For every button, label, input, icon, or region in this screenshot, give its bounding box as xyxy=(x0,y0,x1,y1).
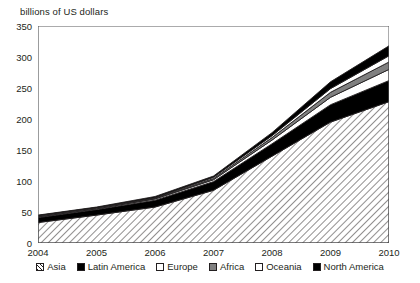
y-tick-label: 150 xyxy=(2,145,32,156)
series-layers xyxy=(38,46,389,243)
plot-svg xyxy=(38,26,389,243)
x-tick-label: 2007 xyxy=(203,247,224,258)
x-tick-label: 2009 xyxy=(320,247,341,258)
x-tick-label: 2005 xyxy=(86,247,107,258)
legend-swatch-icon xyxy=(209,263,217,271)
area-series-asia xyxy=(38,102,389,243)
y-axis-title: billions of US dollars xyxy=(20,6,108,17)
legend-swatch-icon xyxy=(77,263,85,271)
y-tick-label: 300 xyxy=(2,52,32,63)
legend-item[interactable]: Asia xyxy=(36,262,65,272)
legend-label: Oceania xyxy=(266,262,301,272)
y-tick-label: 250 xyxy=(2,83,32,94)
y-tick-label: 350 xyxy=(2,21,32,32)
legend-item[interactable]: Oceania xyxy=(255,262,301,272)
x-tick-label: 2004 xyxy=(27,247,48,258)
legend-swatch-icon xyxy=(255,263,263,271)
legend-swatch-icon xyxy=(313,263,321,271)
plot-area xyxy=(38,26,389,243)
legend-item[interactable]: Latin America xyxy=(77,262,146,272)
legend-item[interactable]: North America xyxy=(313,262,384,272)
legend-label: Africa xyxy=(220,262,244,272)
x-tick-label: 2010 xyxy=(378,247,399,258)
legend-label: Asia xyxy=(47,262,65,272)
x-tick-label: 2006 xyxy=(144,247,165,258)
x-tick-label: 2008 xyxy=(261,247,282,258)
y-tick-label: 100 xyxy=(2,176,32,187)
legend-item[interactable]: Africa xyxy=(209,262,244,272)
legend-label: North America xyxy=(324,262,384,272)
chart-legend: AsiaLatin AmericaEuropeAfricaOceaniaNort… xyxy=(0,262,420,272)
stacked-area-chart: billions of US dollars 05010015020025030… xyxy=(0,0,420,283)
legend-swatch-icon xyxy=(156,263,164,271)
legend-swatch-icon xyxy=(36,263,44,271)
y-tick-label: 200 xyxy=(2,114,32,125)
y-tick-label: 50 xyxy=(2,207,32,218)
legend-item[interactable]: Europe xyxy=(156,262,198,272)
legend-label: Latin America xyxy=(88,262,146,272)
legend-label: Europe xyxy=(167,262,198,272)
